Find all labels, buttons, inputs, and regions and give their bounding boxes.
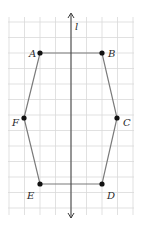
axis-label-l: l <box>75 21 78 32</box>
point-label-a: A <box>28 48 36 59</box>
point-label-c: C <box>123 117 131 128</box>
point-d <box>99 181 104 186</box>
line-of-symmetry-l: l <box>68 13 78 218</box>
point-label-b: B <box>107 48 115 59</box>
point-label-d: D <box>106 190 115 201</box>
point-a <box>37 50 42 55</box>
point-f <box>21 115 26 120</box>
point-c <box>114 115 119 120</box>
hexagon-reflection-diagram: l ABCDEF <box>0 0 142 226</box>
point-e <box>37 181 42 186</box>
point-b <box>99 50 104 55</box>
point-label-e: E <box>26 190 35 201</box>
point-label-f: F <box>11 117 20 128</box>
